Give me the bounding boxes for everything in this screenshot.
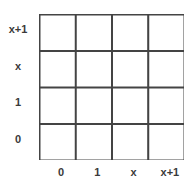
col-label: 1 [79,165,115,179]
grid-cell-r2-c3 [149,88,185,124]
grid-cell-r2-c1 [76,88,112,124]
grid-cell-r3-c3 [149,124,185,160]
col-label: x+1 [152,165,188,179]
grid-cell-r3-c2 [112,124,148,160]
grid-cell-r0-c2 [112,15,148,51]
grid-cell-r0-c0 [40,15,76,51]
grid-cell-r1-c0 [40,51,76,87]
col-label: 0 [43,165,79,179]
row-label: x+1 [0,22,36,36]
row-label: 0 [0,132,36,146]
grid-cell-r2-c2 [112,88,148,124]
grid-cell-r0-c3 [149,15,185,51]
row-label: x [0,59,36,73]
grid [39,14,184,160]
col-label: x [116,165,152,179]
grid-cell-r2-c0 [40,88,76,124]
grid-cell-r0-c1 [76,15,112,51]
row-label: 1 [0,95,36,109]
grid-cell-r3-c0 [40,124,76,160]
grid-cell-r1-c2 [112,51,148,87]
grid-cell-r3-c1 [76,124,112,160]
grid-cell-r1-c1 [76,51,112,87]
grid-cell-r1-c3 [149,51,185,87]
